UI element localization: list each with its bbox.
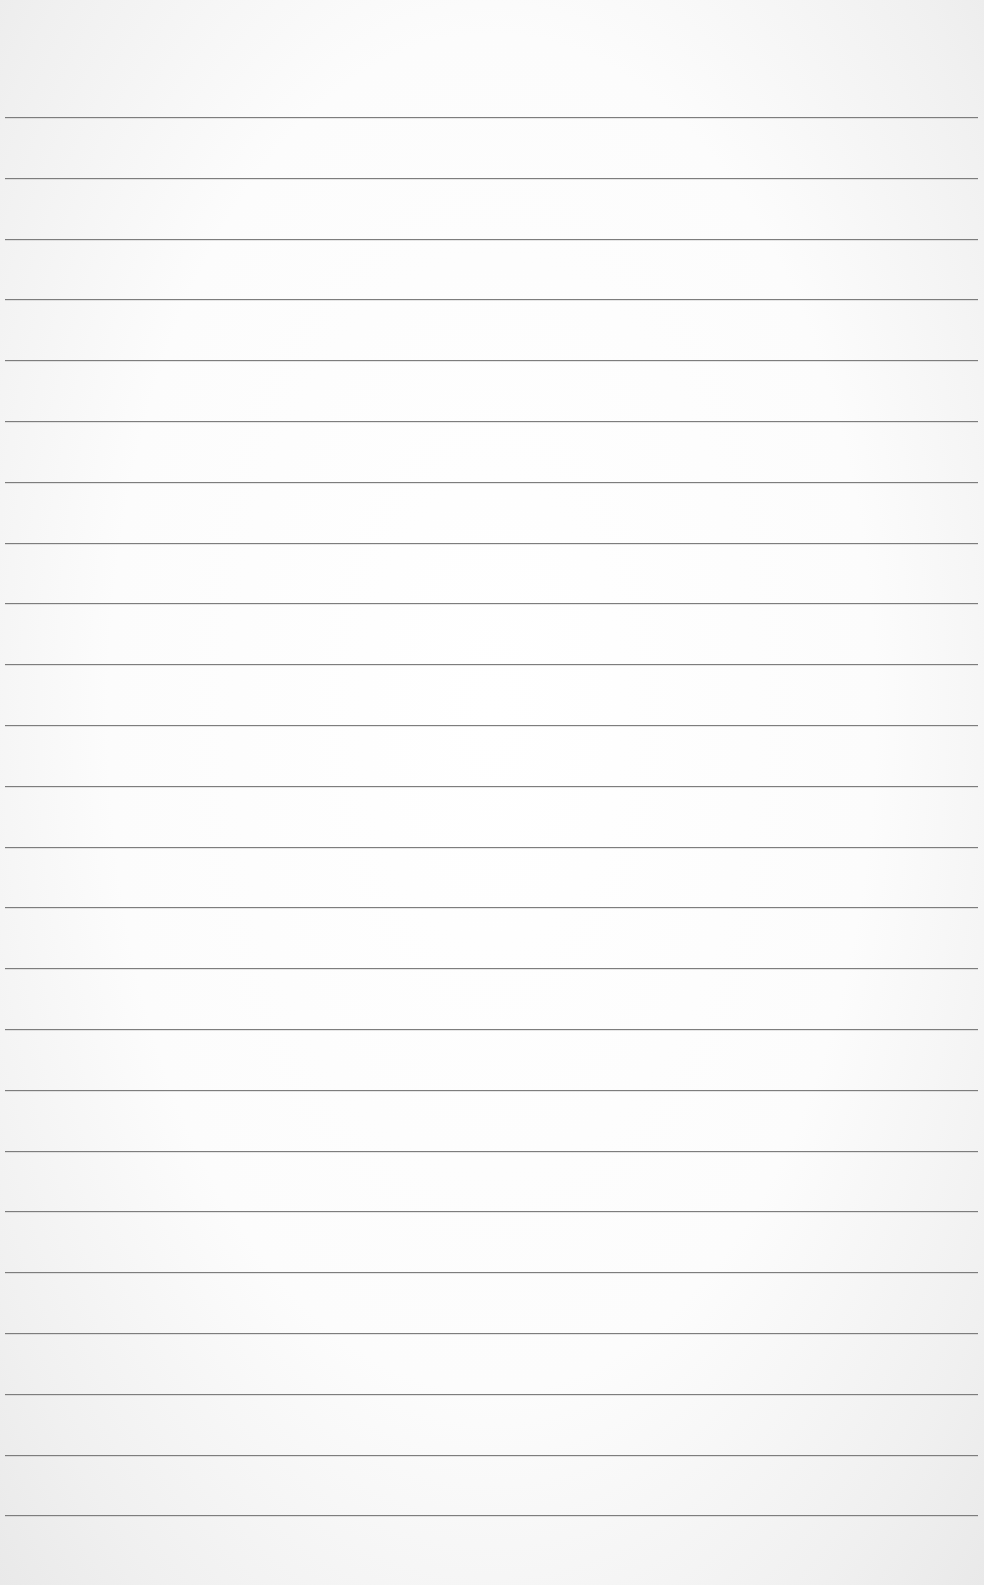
ruled-line <box>5 664 978 665</box>
ruled-line <box>5 1515 978 1516</box>
ruled-line <box>5 847 978 848</box>
ruled-line <box>5 117 978 118</box>
ruled-line <box>5 543 978 544</box>
ruled-line <box>5 360 978 361</box>
ruled-line <box>5 178 978 179</box>
lined-paper-sheet <box>0 0 984 1585</box>
ruled-line <box>5 1333 978 1334</box>
ruled-line <box>5 1090 978 1091</box>
ruled-line <box>5 1029 978 1030</box>
ruled-line <box>5 239 978 240</box>
ruled-line <box>5 968 978 969</box>
ruled-line <box>5 482 978 483</box>
ruled-line <box>5 1272 978 1273</box>
ruled-line <box>5 1151 978 1152</box>
ruled-line <box>5 725 978 726</box>
ruled-line <box>5 603 978 604</box>
ruled-line <box>5 421 978 422</box>
ruled-line <box>5 1211 978 1212</box>
ruled-line <box>5 1455 978 1456</box>
ruled-line <box>5 786 978 787</box>
ruled-line <box>5 299 978 300</box>
ruled-line <box>5 1394 978 1395</box>
ruled-line <box>5 907 978 908</box>
